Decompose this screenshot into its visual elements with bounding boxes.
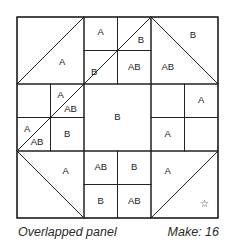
- patch-label: A: [62, 165, 69, 176]
- patch-label: AB: [64, 103, 77, 114]
- patch-label: A: [59, 56, 66, 67]
- patch-label: A: [24, 123, 31, 134]
- patch-label: A: [98, 26, 105, 37]
- patch-label: B: [64, 128, 70, 139]
- cell-ml-1: [17, 84, 51, 118]
- caption-pattern-name: Overlapped panel: [18, 225, 117, 239]
- patch-label: AB: [94, 161, 107, 172]
- patch-label: B: [190, 29, 196, 40]
- diagonal-top-right: [151, 17, 218, 84]
- patch-label: AB: [128, 61, 141, 72]
- patch-label: AB: [161, 61, 174, 72]
- cell-mr-1: [151, 84, 185, 118]
- patch-label: B: [131, 161, 137, 172]
- caption-make-count: Make: 16: [168, 225, 219, 239]
- patch-label: A: [57, 89, 64, 100]
- quilt-block-diagram: AABBABBABAABBAAABBAAABBABAB☆: [0, 0, 235, 225]
- patch-label: B: [98, 195, 104, 206]
- patch-label: A: [198, 94, 205, 105]
- patch-label: B: [114, 111, 120, 122]
- patch-label: B: [138, 34, 144, 45]
- diagonal-top-left: [17, 17, 84, 84]
- patch-label: AB: [31, 136, 44, 147]
- diagonal-bottom-left: [17, 151, 84, 218]
- star-icon: ☆: [200, 198, 209, 209]
- patch-label: B: [91, 66, 97, 77]
- cell-mr-4: [185, 118, 219, 152]
- patch-label: A: [165, 128, 172, 139]
- patch-label: A: [165, 165, 172, 176]
- patch-label: AB: [128, 195, 141, 206]
